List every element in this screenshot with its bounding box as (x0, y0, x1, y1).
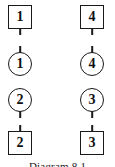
connector-stub-down-icon (91, 111, 93, 118)
connector-stub-down-icon (19, 28, 21, 35)
node-circle-upper-left[interactable]: 1 (8, 52, 32, 76)
node-square-top-left[interactable]: 1 (8, 5, 32, 29)
connector-stub-down-icon (91, 28, 93, 35)
connector-stub-up-icon (91, 125, 93, 132)
connector-stub-up-icon (91, 46, 93, 53)
node-square-bottom-left[interactable]: 2 (8, 131, 32, 155)
node-label: 1 (17, 57, 24, 71)
node-circle-lower-right[interactable]: 3 (80, 88, 104, 112)
connector-stub-down-icon (19, 111, 21, 118)
node-label: 3 (89, 93, 96, 107)
node-circle-upper-right[interactable]: 4 (80, 52, 104, 76)
node-label: 1 (17, 10, 24, 24)
node-label: 2 (17, 136, 24, 150)
node-square-bottom-right[interactable]: 3 (80, 131, 104, 155)
node-label: 3 (89, 136, 96, 150)
node-label: 4 (89, 57, 96, 71)
connector-stub-up-icon (19, 46, 21, 53)
figure-caption: Diagram 8.1 (0, 160, 115, 167)
connector-stub-up-icon (19, 125, 21, 132)
node-square-top-right[interactable]: 4 (80, 5, 104, 29)
node-label: 2 (17, 93, 24, 107)
node-circle-lower-left[interactable]: 2 (8, 88, 32, 112)
diagram-canvas: 1 4 1 4 2 3 2 3 Diagram 8.1 (0, 0, 115, 167)
node-label: 4 (89, 10, 96, 24)
